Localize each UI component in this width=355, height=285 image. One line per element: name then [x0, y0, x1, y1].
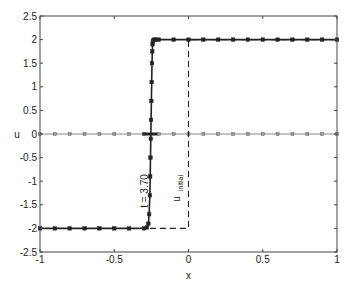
- y-tick-label: 0.5: [23, 105, 37, 116]
- data-marker: [149, 137, 153, 141]
- y-tick-label: 0: [31, 129, 37, 140]
- x-tick-label: 1: [334, 254, 340, 265]
- y-tick-label: 1: [31, 81, 37, 92]
- data-marker: [216, 38, 220, 42]
- data-marker: [113, 227, 117, 231]
- data-marker: [53, 133, 56, 136]
- x-tick-label: -0.5: [106, 254, 124, 265]
- data-marker: [150, 99, 154, 103]
- plot-area: -1-0.500.51-2.5-2-1.5-1-0.500.511.522.5 …: [0, 0, 355, 285]
- initial-label-main: u: [171, 196, 182, 202]
- data-marker: [261, 38, 265, 42]
- y-tick-label: 2: [31, 34, 37, 45]
- data-marker: [145, 226, 149, 230]
- data-marker: [157, 133, 160, 136]
- data-marker: [128, 133, 131, 136]
- y-tick-label: -1.5: [20, 199, 38, 210]
- data-marker: [127, 227, 131, 231]
- data-marker: [321, 133, 324, 136]
- data-marker: [261, 133, 264, 136]
- data-marker: [68, 133, 71, 136]
- data-marker: [202, 38, 206, 42]
- data-marker: [147, 222, 151, 226]
- y-tick-label: -0.5: [20, 152, 38, 163]
- y-tick-label: -2.5: [20, 247, 38, 258]
- data-marker: [187, 38, 191, 42]
- data-marker: [149, 118, 153, 122]
- data-marker: [151, 50, 155, 54]
- initial-annotation: u initial: [171, 175, 184, 202]
- data-marker: [231, 38, 235, 42]
- y-tick-label: 2.5: [23, 11, 37, 22]
- data-marker: [276, 38, 280, 42]
- data-marker: [68, 227, 72, 231]
- data-marker: [113, 133, 116, 136]
- chart-figure: -1-0.500.51-2.5-2-1.5-1-0.500.511.522.5 …: [0, 0, 355, 285]
- data-marker: [217, 133, 220, 136]
- y-axis-label: u: [14, 129, 20, 140]
- data-marker: [232, 133, 235, 136]
- data-marker: [291, 38, 295, 42]
- data-marker: [276, 133, 279, 136]
- data-marker: [98, 133, 101, 136]
- data-marker: [202, 133, 205, 136]
- data-marker: [306, 133, 309, 136]
- y-tick-label: 1.5: [23, 58, 37, 69]
- x-tick-label: 0.5: [256, 254, 270, 265]
- data-marker: [320, 38, 324, 42]
- data-marker: [53, 227, 57, 231]
- x-axis-label: x: [186, 270, 191, 281]
- data-marker: [147, 212, 151, 216]
- data-marker: [150, 80, 154, 84]
- data-marker: [149, 156, 153, 160]
- x-tick-label: 0: [186, 254, 192, 265]
- data-marker: [83, 133, 86, 136]
- data-marker: [83, 227, 87, 231]
- data-marker: [306, 38, 310, 42]
- data-marker: [172, 133, 175, 136]
- y-tick-label: -1: [28, 176, 37, 187]
- data-marker: [157, 38, 161, 42]
- series-layer: [38, 38, 339, 230]
- data-marker: [150, 61, 154, 64]
- data-marker: [172, 38, 176, 42]
- data-marker: [98, 227, 102, 231]
- data-marker: [246, 133, 249, 136]
- data-marker: [246, 38, 250, 42]
- initial-label-sub: initial: [177, 175, 184, 191]
- y-tick-label: -2: [28, 223, 37, 234]
- time-annotation: t = 3.70: [139, 174, 150, 208]
- data-marker: [291, 133, 294, 136]
